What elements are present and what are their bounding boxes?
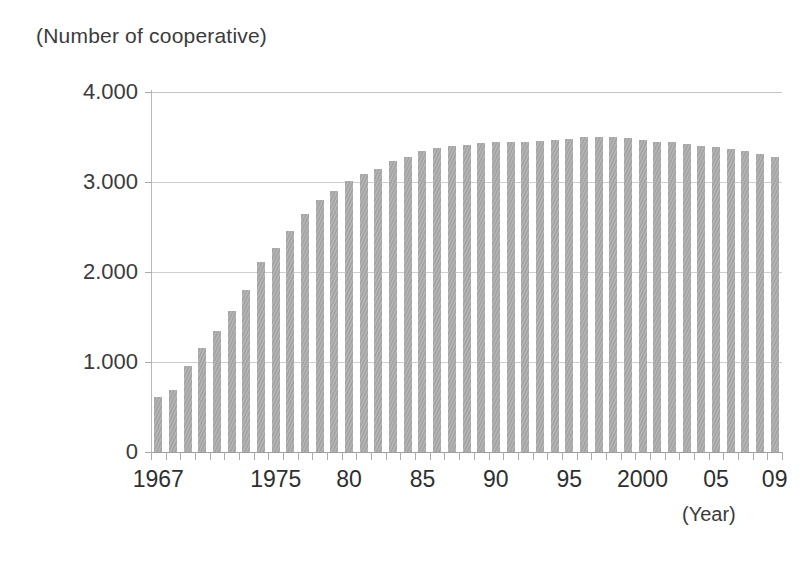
x-tick-mark bbox=[665, 452, 666, 460]
bar bbox=[286, 231, 294, 452]
bar bbox=[727, 149, 735, 452]
x-tick-mark bbox=[591, 452, 592, 460]
x-tick-label-2005: 05 bbox=[703, 466, 729, 493]
bar bbox=[463, 145, 471, 452]
x-tick-label-2009: 09 bbox=[762, 466, 788, 493]
x-tick-mark bbox=[503, 452, 504, 460]
x-tick-mark bbox=[400, 452, 401, 460]
bar bbox=[609, 137, 617, 452]
x-tick-mark bbox=[782, 452, 783, 460]
x-tick-mark bbox=[533, 452, 534, 460]
bar bbox=[477, 143, 485, 452]
x-tick-mark bbox=[621, 452, 622, 460]
bar bbox=[374, 169, 382, 453]
x-tick-mark bbox=[459, 452, 460, 460]
x-tick-mark bbox=[738, 452, 739, 460]
bar bbox=[448, 146, 456, 452]
x-tick-mark bbox=[195, 452, 196, 460]
x-tick-mark bbox=[562, 452, 563, 460]
bar bbox=[198, 348, 206, 452]
bar-series-group bbox=[0, 0, 812, 563]
page-caption-sliver bbox=[90, 551, 610, 563]
x-tick-mark bbox=[474, 452, 475, 460]
x-tick-mark bbox=[268, 452, 269, 460]
x-tick-mark bbox=[694, 452, 695, 460]
x-tick-mark bbox=[723, 452, 724, 460]
bar bbox=[668, 142, 676, 452]
x-tick-mark bbox=[430, 452, 431, 460]
x-tick-label-1990: 90 bbox=[483, 466, 509, 493]
x-tick-mark bbox=[180, 452, 181, 460]
bar bbox=[624, 138, 632, 452]
x-tick-mark bbox=[679, 452, 680, 460]
x-tick-mark bbox=[239, 452, 240, 460]
x-tick-mark bbox=[166, 452, 167, 460]
x-tick-label-1985: 85 bbox=[410, 466, 436, 493]
x-tick-mark bbox=[518, 452, 519, 460]
x-tick-mark bbox=[224, 452, 225, 460]
x-tick-mark bbox=[650, 452, 651, 460]
bar bbox=[360, 174, 368, 452]
bar bbox=[565, 139, 573, 452]
bar bbox=[154, 397, 162, 452]
bar bbox=[389, 161, 397, 452]
bar bbox=[653, 142, 661, 453]
x-tick-mark bbox=[371, 452, 372, 460]
bar bbox=[213, 331, 221, 453]
bar bbox=[595, 137, 603, 452]
x-tick-mark bbox=[709, 452, 710, 460]
bar bbox=[184, 366, 192, 452]
bar bbox=[697, 146, 705, 452]
bar bbox=[316, 200, 324, 452]
x-tick-mark bbox=[386, 452, 387, 460]
bar bbox=[404, 157, 412, 452]
x-tick-mark bbox=[151, 452, 152, 460]
bar bbox=[418, 151, 426, 452]
x-tick-label-1980: 80 bbox=[336, 466, 362, 493]
x-tick-mark bbox=[415, 452, 416, 460]
x-tick-mark bbox=[342, 452, 343, 460]
x-tick-label-1967: 1967 bbox=[133, 466, 184, 493]
x-tick-mark bbox=[210, 452, 211, 460]
bar bbox=[242, 290, 250, 452]
x-tick-mark bbox=[606, 452, 607, 460]
bar bbox=[330, 191, 338, 452]
x-tick-label-1975: 1975 bbox=[250, 466, 301, 493]
x-tick-mark bbox=[489, 452, 490, 460]
x-tick-mark bbox=[327, 452, 328, 460]
x-tick-mark bbox=[444, 452, 445, 460]
bar-chart-figure: (Number of cooperative) 01.0002.0003.000… bbox=[0, 0, 812, 563]
x-tick-mark bbox=[254, 452, 255, 460]
bar bbox=[683, 144, 691, 452]
x-tick-mark bbox=[356, 452, 357, 460]
x-tick-mark bbox=[298, 452, 299, 460]
bar bbox=[551, 140, 559, 452]
bar bbox=[507, 142, 515, 453]
x-tick-label-1995: 95 bbox=[556, 466, 582, 493]
bar bbox=[771, 157, 779, 452]
bar bbox=[580, 137, 588, 452]
bar bbox=[257, 262, 265, 452]
x-tick-mark bbox=[767, 452, 768, 460]
x-tick-mark bbox=[635, 452, 636, 460]
bar bbox=[741, 151, 749, 452]
bar bbox=[433, 148, 441, 452]
x-axis-unit-label: (Year) bbox=[682, 503, 736, 526]
x-tick-mark bbox=[547, 452, 548, 460]
bar bbox=[301, 214, 309, 453]
bar bbox=[521, 142, 529, 453]
x-tick-label-2000: 2000 bbox=[617, 466, 668, 493]
bar bbox=[272, 248, 280, 452]
x-tick-mark bbox=[312, 452, 313, 460]
bar bbox=[492, 142, 500, 452]
bar bbox=[169, 390, 177, 452]
bar bbox=[712, 147, 720, 452]
bar bbox=[639, 140, 647, 452]
bar bbox=[756, 154, 764, 452]
bar bbox=[536, 141, 544, 452]
x-tick-mark bbox=[753, 452, 754, 460]
bar bbox=[228, 311, 236, 452]
x-tick-mark bbox=[283, 452, 284, 460]
x-tick-mark bbox=[577, 452, 578, 460]
bar bbox=[345, 181, 353, 452]
